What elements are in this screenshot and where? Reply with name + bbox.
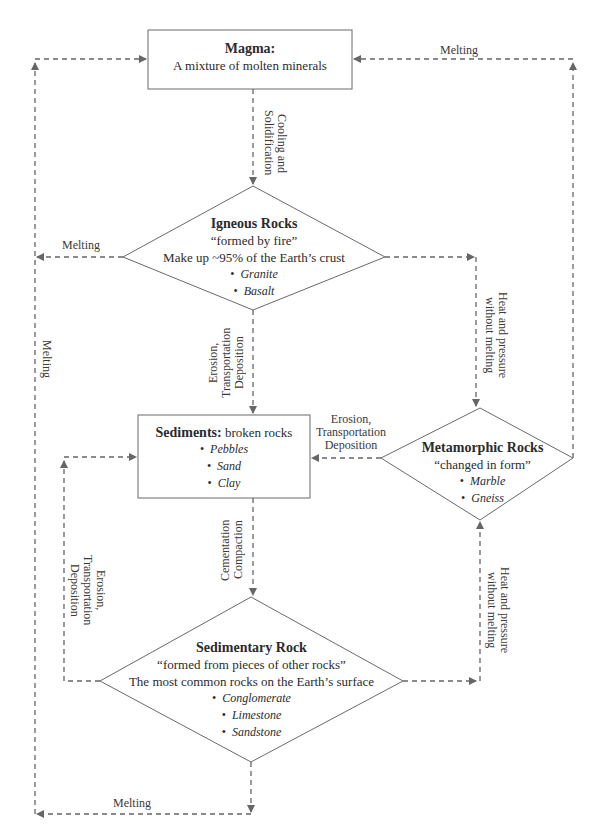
label-line: Transportation: [219, 328, 233, 398]
label-line: Transportation: [81, 555, 95, 625]
magma-title: Magma:: [148, 40, 352, 57]
label-sedimentary-heat: Heat and pressure without melting: [485, 555, 511, 665]
label-igneous-heat: Heat and pressure without melting: [483, 280, 509, 390]
igneous-title: Igneous Rocks: [123, 215, 385, 232]
label-line: Solidification: [262, 110, 276, 175]
example-item: Clay: [138, 475, 310, 492]
sediments-examples: Pebbles Sand Clay: [138, 441, 310, 492]
label-igneous-erosion: Erosion, Transportation Deposition: [207, 318, 246, 408]
example-item: Limestone: [100, 707, 403, 724]
label-cooling: Cooling and Solidification: [262, 103, 288, 183]
metamorphic-title: Metamorphic Rocks: [395, 439, 570, 456]
example-item: Granite: [123, 266, 385, 283]
label-cementation: Cementation Compaction: [219, 510, 245, 590]
example-item: Sandstone: [100, 724, 403, 741]
label-line: Erosion,: [206, 343, 220, 383]
igneous-examples: Granite Basalt: [123, 266, 385, 300]
label-line: Erosion,: [94, 570, 108, 610]
label-metamorphic-erosion: Erosion, Transportation Deposition: [313, 413, 389, 452]
sediments-heading: Sediments: broken rocks: [138, 424, 310, 441]
label-left-melting: Melting: [40, 340, 53, 378]
label-line: Deposition: [313, 439, 389, 452]
sediments-subtitle: broken rocks: [225, 425, 293, 440]
label-melting-top: Melting: [440, 44, 478, 57]
sedimentary-node: Sedimentary Rock “formed from pieces of …: [100, 639, 403, 741]
label-line: without melting: [483, 297, 497, 373]
metamorphic-tagline: “changed in form”: [395, 456, 570, 473]
label-line: Deposition: [232, 337, 246, 390]
label-line: Cooling and: [275, 114, 289, 173]
sediments-node: Sediments: broken rocks Pebbles Sand Cla…: [138, 424, 310, 492]
example-item: Pebbles: [138, 441, 310, 458]
label-line: without melting: [485, 572, 499, 648]
igneous-tagline: “formed by fire”: [123, 232, 385, 249]
label-line: Deposition: [68, 564, 82, 617]
label-sedimentary-erosion: Erosion, Transportation Deposition: [68, 540, 107, 640]
sedimentary-tagline: “formed from pieces of other rocks”: [100, 656, 403, 673]
sediments-title: Sediments:: [156, 425, 222, 440]
sedimentary-title: Sedimentary Rock: [100, 639, 403, 656]
example-item: Basalt: [123, 283, 385, 300]
metamorphic-node: Metamorphic Rocks “changed in form” Marb…: [395, 439, 570, 507]
example-item: Conglomerate: [100, 690, 403, 707]
label-line: Heat and pressure: [498, 567, 512, 653]
metamorphic-examples: Marble Gneiss: [395, 473, 570, 507]
label-line: Compaction: [231, 521, 245, 580]
sedimentary-examples: Conglomerate Limestone Sandstone: [100, 690, 403, 741]
label-line: Heat and pressure: [496, 292, 510, 378]
label-line: Cementation: [218, 519, 232, 580]
magma-node: Magma: A mixture of molten minerals: [148, 40, 352, 74]
magma-subtitle: A mixture of molten minerals: [148, 57, 352, 74]
label-sedimentary-melting: Melting: [113, 797, 151, 810]
igneous-node: Igneous Rocks “formed by fire” Make up ~…: [123, 215, 385, 300]
example-item: Gneiss: [395, 490, 570, 507]
sedimentary-note: The most common rocks on the Earth’s sur…: [100, 673, 403, 690]
example-item: Sand: [138, 458, 310, 475]
label-igneous-melting: Melting: [62, 239, 100, 252]
example-item: Marble: [395, 473, 570, 490]
igneous-note: Make up ~95% of the Earth’s crust: [123, 249, 385, 266]
